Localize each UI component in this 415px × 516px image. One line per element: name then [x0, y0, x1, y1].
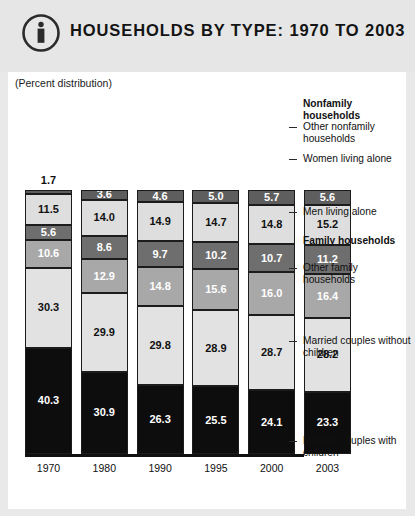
- info-circle-icon: [21, 13, 61, 53]
- segment-1970-women-alone[interactable]: 11.5: [25, 194, 72, 224]
- segment-1995-married-with[interactable]: 25.5: [192, 386, 239, 453]
- bar-1995[interactable]: 5.014.710.215.628.925.5: [192, 190, 239, 454]
- segment-1990-married-without[interactable]: 29.8: [137, 306, 184, 385]
- segment-1970-other-family[interactable]: 10.6: [25, 240, 72, 268]
- segment-value: 14.7: [205, 217, 226, 228]
- legend-item-women-alone: Women living alone: [303, 153, 411, 165]
- segment-value: 5.6: [41, 227, 56, 238]
- segment-1990-married-with[interactable]: 26.3: [137, 385, 184, 454]
- segment-2000-other-nonfamily[interactable]: 5.7: [248, 190, 295, 205]
- legend-heading-nonfamily: Nonfamily households: [303, 98, 411, 122]
- segment-value: 12.9: [94, 271, 115, 282]
- segment-2003-other-nonfamily[interactable]: 5.6: [304, 190, 351, 205]
- chart-baseline: [25, 454, 304, 457]
- segment-value: 28.9: [205, 343, 226, 354]
- outside-value-1970: 1.7: [25, 174, 72, 186]
- segment-value: 14.8: [149, 281, 170, 292]
- segment-value: 29.8: [149, 340, 170, 351]
- bar-2000[interactable]: 5.714.810.716.028.724.1: [248, 190, 295, 454]
- leader-dash-other-family: [289, 268, 297, 269]
- segment-value: 5.7: [264, 192, 279, 203]
- legend-item-other-nonfamily: Other nonfamily households: [303, 121, 411, 145]
- segment-1980-women-alone[interactable]: 14.0: [81, 200, 128, 237]
- segment-value: 8.6: [97, 242, 112, 253]
- legend-item-married-without-children: Married couples without children: [303, 335, 411, 359]
- legend-item-men-alone: Men living alone: [303, 206, 411, 218]
- segment-value: 25.5: [205, 415, 226, 426]
- segment-1980-married-with[interactable]: 30.9: [81, 372, 128, 454]
- segment-1990-men-alone[interactable]: 9.7: [137, 241, 184, 267]
- x-axis-label-1970: 1970: [25, 462, 72, 474]
- segment-1980-men-alone[interactable]: 8.6: [81, 236, 128, 259]
- segment-1970-married-with[interactable]: 40.3: [25, 348, 72, 454]
- segment-value: 10.7: [261, 253, 282, 264]
- segment-1980-married-without[interactable]: 29.9: [81, 293, 128, 372]
- segment-value: 9.7: [152, 249, 167, 260]
- bar-2003[interactable]: 5.615.211.216.428.223.3: [304, 190, 351, 454]
- segment-value: 29.9: [94, 327, 115, 338]
- segment-value: 16.0: [261, 288, 282, 299]
- page-title: HOUSEHOLDS BY TYPE: 1970 TO 2003: [70, 21, 405, 40]
- leader-dash-married-with: [289, 441, 297, 442]
- segment-1995-men-alone[interactable]: 10.2: [192, 242, 239, 269]
- segment-2000-married-without[interactable]: 28.7: [248, 315, 295, 391]
- x-axis-label-1990: 1990: [137, 462, 184, 474]
- leader-dash-men-alone: [289, 212, 297, 213]
- segment-value: 15.6: [205, 284, 226, 295]
- segment-1995-other-family[interactable]: 15.6: [192, 269, 239, 310]
- segment-1970-married-without[interactable]: 30.3: [25, 268, 72, 348]
- leader-dash-women-alone: [289, 159, 297, 160]
- leader-dash-other-nonfamily: [289, 127, 297, 128]
- x-axis-label-2000: 2000: [248, 462, 295, 474]
- segment-value: 5.6: [320, 192, 335, 203]
- x-axis-label-1980: 1980: [81, 462, 128, 474]
- segment-1970-men-alone[interactable]: 5.6: [25, 225, 72, 240]
- segment-value: 40.3: [38, 395, 59, 406]
- x-axis-label-2003: 2003: [304, 462, 351, 474]
- segment-1980-other-family[interactable]: 12.9: [81, 259, 128, 293]
- segment-1995-married-without[interactable]: 28.9: [192, 310, 239, 386]
- legend-item-married-with-children: Married couples with children: [303, 435, 411, 459]
- segment-value: 14.8: [261, 219, 282, 230]
- segment-1990-other-family[interactable]: 14.8: [137, 267, 184, 306]
- bar-1970[interactable]: 11.55.610.630.340.3: [25, 190, 72, 454]
- segment-1980-other-nonfamily[interactable]: 3.6: [81, 190, 128, 200]
- segment-value: 24.1: [261, 417, 282, 428]
- bar-1990[interactable]: 4.614.99.714.829.826.3: [137, 190, 184, 454]
- segment-value: 16.4: [317, 291, 338, 302]
- header-band: HOUSEHOLDS BY TYPE: 1970 TO 2003: [0, 0, 415, 72]
- bar-1980[interactable]: 3.614.08.612.929.930.9: [81, 190, 128, 454]
- segment-1995-other-nonfamily[interactable]: 5.0: [192, 190, 239, 203]
- segment-1990-women-alone[interactable]: 14.9: [137, 202, 184, 241]
- segment-value: 30.3: [38, 302, 59, 313]
- segment-1995-women-alone[interactable]: 14.7: [192, 203, 239, 242]
- segment-2000-married-with[interactable]: 24.1: [248, 390, 295, 454]
- segment-value: 26.3: [149, 414, 170, 425]
- segment-value: 28.7: [261, 347, 282, 358]
- segment-value: 10.2: [205, 250, 226, 261]
- segment-value: 23.3: [317, 417, 338, 428]
- segment-value: 30.9: [94, 407, 115, 418]
- x-axis-label-1995: 1995: [192, 462, 239, 474]
- segment-value: 3.6: [97, 190, 112, 200]
- segment-value: 11.5: [38, 204, 59, 215]
- segment-value: 14.9: [149, 216, 170, 227]
- segment-value: 5.0: [208, 191, 223, 202]
- chart-screenshot: HOUSEHOLDS BY TYPE: 1970 TO 2003 (Percen…: [0, 0, 415, 516]
- leader-dash-married-without: [289, 341, 297, 342]
- legend-item-other-family: Other family households: [303, 262, 411, 286]
- segment-value: 15.2: [317, 219, 338, 230]
- segment-value: 4.6: [152, 191, 167, 202]
- chart-panel: (Percent distribution) 11.55.610.630.340…: [8, 72, 406, 509]
- segment-value: 10.6: [38, 248, 59, 259]
- segment-2000-other-family[interactable]: 16.0: [248, 272, 295, 314]
- segment-2000-women-alone[interactable]: 14.8: [248, 205, 295, 244]
- legend-heading-family: Family households: [303, 235, 411, 247]
- segment-value: 14.0: [94, 212, 115, 223]
- segment-1990-other-nonfamily[interactable]: 4.6: [137, 190, 184, 202]
